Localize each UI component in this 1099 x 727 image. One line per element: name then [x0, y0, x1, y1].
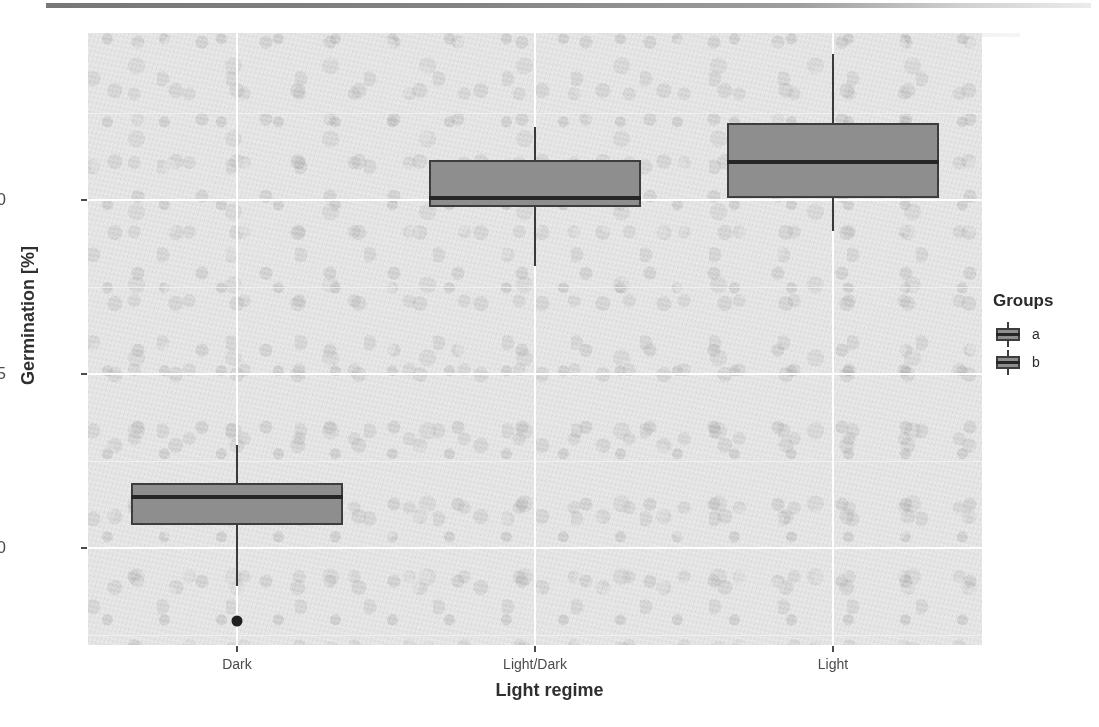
whisker-upper: [832, 54, 834, 124]
whisker-lower: [534, 207, 536, 266]
y-tick-label: 70: [0, 538, 6, 558]
legend-key-median: [996, 333, 1020, 336]
legend-item-label: a: [1032, 326, 1040, 342]
boxplot-box: [727, 33, 939, 645]
boxplot-box: [131, 33, 343, 645]
plot-panel: [88, 33, 982, 645]
y-tick-mark: [81, 547, 87, 549]
y-axis-title: Germination [%]: [18, 166, 39, 466]
y-tick-label: 80: [0, 190, 6, 210]
y-tick-mark: [81, 199, 87, 201]
median-line: [727, 160, 939, 164]
legend-item: b: [993, 349, 1093, 375]
legend-item-label: b: [1032, 354, 1040, 370]
x-tick-label: Dark: [222, 656, 252, 672]
boxplot-figure: 707580 DarkLight/DarkLight Germination […: [0, 0, 1099, 727]
legend-items: ab: [993, 321, 1093, 375]
boxplot-box: [429, 33, 641, 645]
median-line: [429, 196, 641, 200]
x-tick-mark: [534, 646, 536, 652]
legend-key-boxplot-icon: [993, 321, 1023, 347]
legend-key-median: [996, 361, 1020, 364]
whisker-lower: [832, 198, 834, 231]
outlier-point: [232, 615, 243, 626]
x-axis-title: Light regime: [0, 680, 1099, 701]
x-tick-label: Light: [818, 656, 848, 672]
y-tick-mark: [81, 373, 87, 375]
x-tick-mark: [832, 646, 834, 652]
legend-key-boxplot-icon: [993, 349, 1023, 375]
legend-key-whisker-lower: [1007, 368, 1009, 375]
legend-title: Groups: [993, 291, 1093, 311]
legend-key-whisker-lower: [1007, 340, 1009, 347]
whisker-upper: [236, 445, 238, 483]
legend: Groups ab: [993, 291, 1093, 377]
median-line: [131, 495, 343, 499]
x-tick-mark: [236, 646, 238, 652]
whisker-lower: [236, 525, 238, 586]
box-iqr: [131, 483, 343, 525]
whisker-upper: [534, 127, 536, 160]
y-tick-label: 75: [0, 364, 6, 384]
x-tick-label: Light/Dark: [503, 656, 567, 672]
legend-item: a: [993, 321, 1093, 347]
